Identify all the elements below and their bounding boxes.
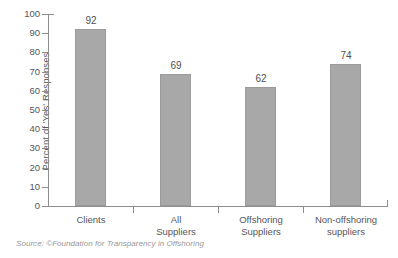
y-axis-tick-label: 30	[10, 143, 40, 153]
y-axis-tick	[42, 91, 48, 92]
y-axis-tick	[42, 187, 48, 188]
y-axis-tick	[42, 110, 48, 111]
y-axis-tick-label: 90	[10, 28, 40, 38]
bar-value-label: 69	[151, 61, 201, 71]
x-axis-tick	[218, 207, 219, 213]
x-axis-right-cap	[387, 200, 388, 207]
y-axis-tick	[42, 14, 48, 15]
y-axis-tick	[42, 52, 48, 53]
bar	[160, 74, 191, 206]
y-axis-tick	[42, 206, 48, 207]
y-axis-line	[48, 14, 49, 207]
y-axis-tick	[42, 168, 48, 169]
bar-value-label: 62	[236, 74, 286, 84]
y-axis-tick-label: 40	[10, 124, 40, 134]
y-axis-tick-label: 80	[10, 47, 40, 57]
y-axis-tick-label: 100	[10, 9, 40, 19]
y-axis-top-cap	[48, 14, 54, 15]
x-axis-tick	[133, 207, 134, 213]
bar-value-label: 74	[321, 51, 371, 61]
bar-value-label: 92	[66, 16, 116, 26]
y-axis-tick-label: 0	[10, 201, 40, 211]
bar	[245, 87, 276, 206]
y-axis-tick-label: 10	[10, 182, 40, 192]
bar	[330, 64, 361, 206]
y-axis-tick-label: 20	[10, 163, 40, 173]
y-axis-tick	[42, 72, 48, 73]
source-note: Source: ©Foundation for Transparency in …	[16, 239, 204, 248]
bar-chart-figure: Percent of 'Yes' Responses 1009080706050…	[0, 0, 398, 258]
y-axis-tick	[42, 148, 48, 149]
x-axis-category-label: Non-offshoringsuppliers	[296, 214, 396, 238]
x-axis-tick	[303, 207, 304, 213]
y-axis-tick	[42, 129, 48, 130]
bar	[75, 29, 106, 206]
y-axis-tick	[42, 33, 48, 34]
x-axis-category-label-line: Non-offshoring	[296, 214, 396, 226]
x-axis-category-label-line: suppliers	[296, 226, 396, 238]
y-axis-tick-label: 70	[10, 67, 40, 77]
y-axis-tick-label: 50	[10, 105, 40, 115]
y-axis-tick-label: 60	[10, 86, 40, 96]
